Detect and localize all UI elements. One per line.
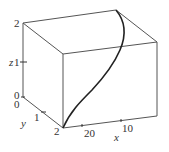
z-tick-label-2: 2: [14, 17, 20, 29]
x-tick-label-20: 20: [84, 127, 96, 139]
3d-plot: 2 1 0 0 1 2 20 10 z y x: [0, 0, 169, 152]
y-tick-label-2: 2: [54, 125, 60, 137]
y-tick-label-0: 0: [14, 98, 20, 110]
data-curve: [63, 10, 124, 128]
bounding-box: [23, 10, 157, 128]
plot-canvas: 2 1 0 0 1 2 20 10 z y x: [0, 0, 169, 152]
box-top-face: [23, 10, 157, 54]
z-tick-label-1: 1: [14, 56, 20, 68]
x-axis-line: [63, 116, 157, 128]
y-tick-label-1: 1: [34, 111, 40, 123]
x-axis-label: x: [113, 131, 119, 143]
x-tick-label-10: 10: [122, 122, 134, 134]
z-axis-label: z: [8, 56, 14, 68]
y-axis-label: y: [20, 117, 26, 129]
